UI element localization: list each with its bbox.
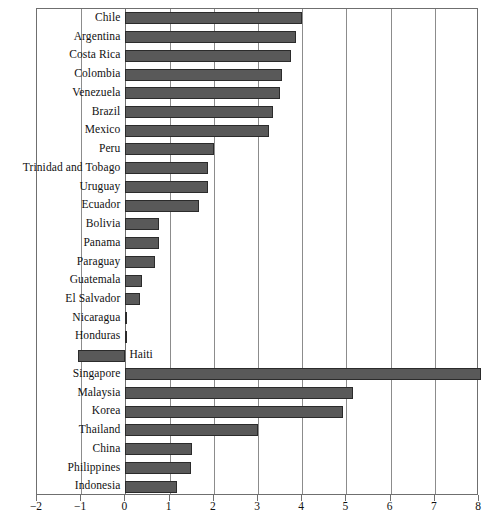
- category-label: Chile: [0, 8, 120, 27]
- bar: [125, 387, 352, 399]
- category-label: Philippines: [0, 458, 120, 477]
- x-tick-label: 7: [431, 500, 437, 512]
- bar: [125, 406, 342, 418]
- category-label: Singapore: [0, 364, 120, 383]
- x-tick-label: 4: [298, 500, 304, 512]
- x-tick-label: 8: [475, 500, 481, 512]
- bar: [125, 424, 258, 436]
- bar: [125, 181, 208, 193]
- bar: [78, 350, 126, 362]
- category-label: Mexico: [0, 120, 120, 139]
- bar: [125, 443, 191, 455]
- category-label: Korea: [0, 401, 120, 420]
- bar-chart: −2−1012345678 ChileArgentinaCosta RicaCo…: [0, 0, 496, 530]
- bar: [125, 218, 159, 230]
- x-tick-label: 5: [343, 500, 349, 512]
- category-label: Haiti: [129, 345, 269, 364]
- x-tick-label: 3: [254, 500, 260, 512]
- category-label: Argentina: [0, 27, 120, 46]
- category-label: Ecuador: [0, 195, 120, 214]
- category-label: Thailand: [0, 420, 120, 439]
- bar: [125, 368, 481, 380]
- category-label: Paraguay: [0, 252, 120, 271]
- bar: [125, 106, 273, 118]
- x-tick-label: 6: [387, 500, 393, 512]
- bar: [125, 12, 302, 24]
- category-label: Bolivia: [0, 214, 120, 233]
- bar: [125, 143, 213, 155]
- category-label: Trinidad and Tobago: [0, 158, 120, 177]
- bar: [125, 462, 190, 474]
- category-label: Costa Rica: [0, 45, 120, 64]
- category-label: Venezuela: [0, 83, 120, 102]
- bar: [125, 69, 281, 81]
- x-tick-label: −2: [30, 500, 42, 512]
- category-label: El Salvador: [0, 289, 120, 308]
- category-label: Malaysia: [0, 383, 120, 402]
- category-label: Peru: [0, 139, 120, 158]
- x-tick-label: 1: [166, 500, 172, 512]
- bar: [125, 200, 199, 212]
- category-label: China: [0, 439, 120, 458]
- category-label: Indonesia: [0, 476, 120, 495]
- category-label: Colombia: [0, 64, 120, 83]
- category-label: Honduras: [0, 326, 120, 345]
- category-label: Panama: [0, 233, 120, 252]
- bar: [125, 312, 127, 324]
- x-tick-label: −1: [74, 500, 86, 512]
- x-tick-label: 2: [210, 500, 216, 512]
- bar: [125, 50, 290, 62]
- bar: [125, 125, 269, 137]
- category-label: Brazil: [0, 102, 120, 121]
- category-label: Guatemala: [0, 270, 120, 289]
- x-tick-label: 0: [122, 500, 128, 512]
- bar: [125, 162, 208, 174]
- bar: [125, 237, 158, 249]
- bar: [125, 87, 279, 99]
- bar: [125, 31, 295, 43]
- bar: [125, 293, 140, 305]
- bar: [125, 275, 142, 287]
- bar: [125, 481, 177, 493]
- bar: [125, 256, 154, 268]
- category-label: Nicaragua: [0, 308, 120, 327]
- bar: [125, 331, 127, 343]
- category-label: Uruguay: [0, 177, 120, 196]
